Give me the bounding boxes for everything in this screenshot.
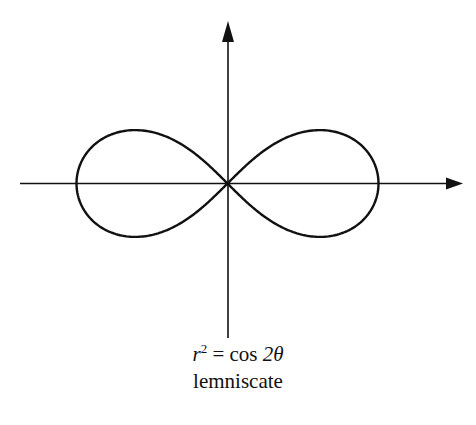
equation-lhs-var: r xyxy=(192,342,200,366)
curve-name-caption: lemniscate xyxy=(0,369,476,394)
equation-lhs-exponent: 2 xyxy=(201,341,208,356)
equation-arg: 2θ xyxy=(263,342,284,366)
equation-caption: r2 = cos 2θ xyxy=(0,341,476,367)
equation-equals: = xyxy=(212,342,224,366)
x-axis-arrow-icon xyxy=(446,178,463,190)
equation-func: cos xyxy=(229,342,257,366)
y-axis-arrow-icon xyxy=(222,21,234,42)
